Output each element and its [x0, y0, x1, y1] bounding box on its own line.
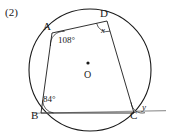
segment-a-d [52, 21, 107, 33]
center-dot [86, 61, 89, 64]
vertex-label-b: B [31, 110, 38, 121]
angle-label-x: x [101, 26, 105, 35]
angle-label-y: y [142, 103, 146, 112]
vertex-label-c: C [130, 110, 137, 121]
angle-label-108: 108° [58, 36, 75, 45]
center-label-o: O [84, 70, 91, 80]
angle-label-84: 84° [43, 95, 56, 104]
vertex-label-d: D [100, 8, 108, 19]
geometry-figure [0, 0, 171, 134]
problem-number: (2) [5, 7, 18, 18]
segment-d-c [107, 21, 134, 113]
vertex-label-a: A [43, 21, 51, 32]
